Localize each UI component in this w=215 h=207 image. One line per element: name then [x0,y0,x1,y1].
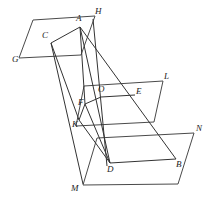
point-label-K: K [72,120,78,129]
point-label-B: B [176,160,182,169]
edge-F-O [85,97,101,104]
point-label-F: F [78,98,84,107]
point-label-M: M [71,184,79,193]
point-label-C: C [42,31,48,40]
point-label-D: D [107,165,114,174]
point-label-N: N [196,124,202,133]
point-label-G: G [12,55,19,64]
point-label-H: H [95,7,102,16]
geometry-figure: A B C D E F G H K L M N O [0,0,215,207]
edge-D-B [110,159,176,163]
point-label-E: E [136,87,142,96]
plane-middle-KL [76,81,163,126]
point-label-A: A [76,14,82,23]
edge-C-K [51,43,79,120]
geometry-canvas [0,0,215,207]
point-label-L: L [164,72,169,81]
edge-A-C [51,27,80,43]
point-label-O: O [98,85,105,94]
plane-top-GH [19,16,95,58]
